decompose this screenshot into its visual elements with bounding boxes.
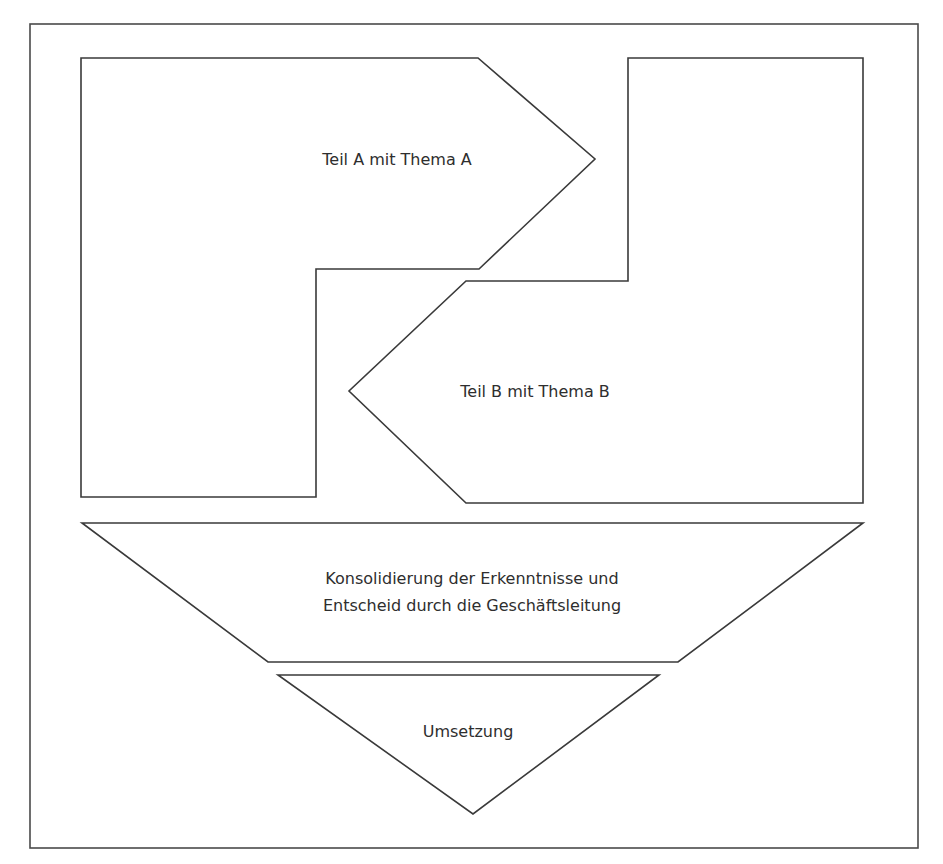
label-teil-b: Teil B mit Thema B (460, 378, 610, 405)
label-konsolidierung-line1: Konsolidierung der Erkenntnisse und (325, 565, 618, 592)
label-konsolidierung-line2: Entscheid durch die Geschäftsleitung (323, 592, 621, 619)
label-teil-a: Teil A mit Thema A (322, 146, 471, 173)
label-umsetzung: Umsetzung (423, 718, 514, 745)
